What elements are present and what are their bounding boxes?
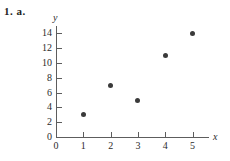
y-tick-label: 12 bbox=[36, 43, 52, 53]
y-axis-tick bbox=[57, 122, 62, 123]
y-axis-tick bbox=[57, 107, 62, 108]
x-tick-label: 2 bbox=[104, 141, 118, 151]
data-point bbox=[108, 83, 113, 88]
y-axis-tick bbox=[57, 48, 62, 49]
data-point bbox=[81, 112, 86, 117]
y-axis-tick bbox=[57, 63, 62, 64]
y-tick-label: 2 bbox=[36, 117, 52, 127]
x-axis-line bbox=[56, 137, 209, 138]
y-tick-label: 8 bbox=[36, 73, 52, 83]
x-tick-label: 4 bbox=[158, 141, 172, 151]
x-axis-tick bbox=[193, 132, 194, 137]
x-tick-label: 0 bbox=[49, 141, 63, 151]
y-axis-tick bbox=[57, 33, 62, 34]
x-axis-tick bbox=[165, 132, 166, 137]
data-point bbox=[135, 98, 140, 103]
y-axis-tick bbox=[57, 93, 62, 94]
y-tick-label: 4 bbox=[36, 102, 52, 112]
data-point bbox=[190, 31, 195, 36]
x-tick-label: 5 bbox=[186, 141, 200, 151]
y-tick-label: 6 bbox=[36, 88, 52, 98]
x-tick-label: 3 bbox=[131, 141, 145, 151]
scatter-plot-figure: 1. a. y x 02468101214 012345 bbox=[0, 0, 230, 161]
x-axis-tick bbox=[83, 132, 84, 137]
y-axis-label: y bbox=[53, 12, 57, 23]
data-point bbox=[163, 53, 168, 58]
x-axis-tick bbox=[138, 132, 139, 137]
problem-label: 1. a. bbox=[4, 5, 26, 17]
y-tick-label: 10 bbox=[36, 58, 52, 68]
x-axis-label: x bbox=[213, 131, 217, 142]
x-axis-tick bbox=[111, 132, 112, 137]
y-tick-label: 14 bbox=[36, 28, 52, 38]
y-axis-line bbox=[56, 26, 57, 138]
y-axis-tick bbox=[57, 78, 62, 79]
x-tick-label: 1 bbox=[76, 141, 90, 151]
